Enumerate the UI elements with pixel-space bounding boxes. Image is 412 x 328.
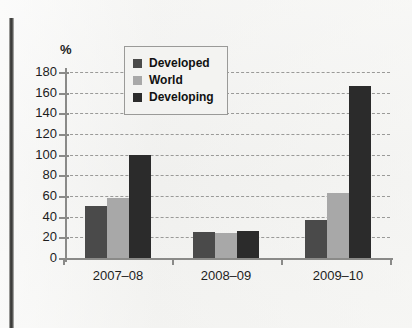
y-axis-tick-label: 180 <box>13 64 57 79</box>
bar-world-2009–10 <box>327 193 349 258</box>
x-axis-label-2007–08: 2007–08 <box>63 268 173 283</box>
y-axis-tick-label: 20 <box>13 229 57 244</box>
y-axis-unit-label: % <box>60 42 72 57</box>
legend-item-world: World <box>133 73 219 87</box>
x-axis-line <box>63 258 393 260</box>
bar-developed-2008–09 <box>193 232 215 258</box>
legend-label-developed: Developed <box>149 56 210 70</box>
x-axis-tick <box>390 258 392 265</box>
bar-world-2007–08 <box>107 198 129 258</box>
y-axis-tick <box>59 134 69 136</box>
y-axis-tick <box>59 113 69 115</box>
x-axis-label-2008–09: 2008–09 <box>171 268 281 283</box>
y-axis-tick <box>59 93 69 95</box>
bar-group <box>305 72 412 258</box>
y-axis-tick <box>59 155 69 157</box>
y-axis-tick-label: 60 <box>13 188 57 203</box>
y-axis-tick <box>59 72 69 74</box>
legend-swatch-icon-developed <box>133 59 142 68</box>
y-axis-tick-label: 160 <box>13 85 57 100</box>
legend-item-developed: Developed <box>133 56 219 70</box>
y-axis-tick <box>59 237 69 239</box>
bar-developing-2009–10 <box>349 86 371 258</box>
y-axis-tick <box>59 217 69 219</box>
legend-swatch-icon-developing <box>133 93 142 102</box>
bar-developing-2008–09 <box>237 231 259 258</box>
y-axis-tick-label: 140 <box>13 105 57 120</box>
legend-label-world: World <box>149 73 183 87</box>
bar-developed-2009–10 <box>305 220 327 258</box>
bar-developed-2007–08 <box>85 206 107 258</box>
y-axis-tick <box>59 196 69 198</box>
y-axis-tick-label: 40 <box>13 209 57 224</box>
chart-figure: % 180160140120100806040200 2007–082008–0… <box>0 0 412 328</box>
y-axis-tick-label: 0 <box>13 250 57 265</box>
bar-world-2008–09 <box>215 233 237 258</box>
y-axis-tick-label: 80 <box>13 167 57 182</box>
y-axis-tick <box>59 258 69 260</box>
y-axis-tick-labels: 180160140120100806040200 <box>5 72 57 258</box>
bar-developing-2007–08 <box>129 155 151 258</box>
x-axis-label-2009–10: 2009–10 <box>283 268 393 283</box>
chart-legend: Developed World Developing <box>124 46 228 115</box>
legend-swatch-icon-world <box>133 76 142 85</box>
y-axis-tick <box>59 175 69 177</box>
x-axis-tick <box>281 258 283 265</box>
y-axis-tick-label: 100 <box>13 147 57 162</box>
legend-label-developing: Developing <box>149 90 214 104</box>
y-axis-tick-label: 120 <box>13 126 57 141</box>
x-axis-tick <box>172 258 174 265</box>
legend-item-developing: Developing <box>133 90 219 104</box>
